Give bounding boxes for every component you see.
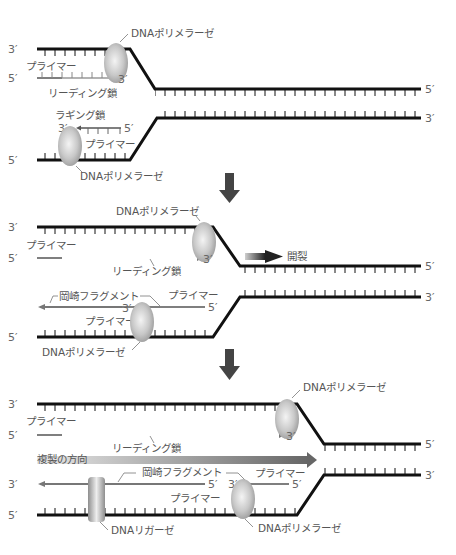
okazaki-fragment-label: 岡崎フラグメント — [59, 290, 139, 302]
upper-template-strand — [37, 227, 421, 273]
unwinding-arrow — [245, 250, 283, 263]
label-5prime: 5′ — [292, 478, 302, 491]
label-5prime: 5′ — [8, 429, 18, 442]
primer-label: プライマー — [255, 467, 305, 479]
okazaki-fragment — [38, 304, 135, 310]
primer-label: プライマー — [26, 239, 76, 251]
lagging-strand-label: ラギング鎖 — [55, 109, 106, 121]
dna-polymerase-label: DNAポリメラーゼ — [131, 27, 215, 39]
primer-label: プライマー — [85, 315, 135, 327]
label-5prime: 5′ — [8, 509, 18, 522]
panel-2: 3′ 5′ 5′ プライマー リーディング鎖 3′ DNAポリメラーゼ 開裂 5… — [8, 205, 435, 358]
label-5prime: 5′ — [208, 301, 218, 314]
label-3prime: 3′ — [286, 430, 296, 443]
dna-polymerase-enzyme — [58, 126, 82, 166]
primer-label: プライマー — [168, 289, 218, 301]
label-3prime: 3′ — [8, 221, 18, 234]
label-5prime: 5′ — [124, 122, 134, 135]
label-5prime: 5′ — [8, 331, 18, 344]
dna-polymerase-label: DNAポリメラーゼ — [42, 346, 126, 358]
okazaki-fragment — [38, 481, 205, 487]
step-arrow-down — [219, 173, 240, 203]
label-3prime: 3′ — [8, 478, 18, 491]
dna-polymerase-label: DNAポリメラーゼ — [116, 205, 200, 217]
label-3prime: 3′ — [425, 112, 435, 125]
replication-direction-label: 複製の方向 — [37, 453, 87, 465]
label-3prime: 3′ — [425, 469, 435, 482]
label-5prime: 5′ — [425, 83, 435, 96]
label-3prime: 3′ — [425, 291, 435, 304]
dna-polymerase-label: DNAポリメラーゼ — [303, 381, 387, 393]
leading-strand-label: リーディング鎖 — [48, 87, 118, 99]
label-3prime: 3′ — [8, 43, 18, 56]
primer-label: プライマー — [26, 415, 76, 427]
label-5prime: 5′ — [8, 252, 18, 265]
primer-label: プライマー — [170, 492, 220, 504]
leading-strand-label: リーディング鎖 — [112, 265, 182, 277]
dna-polymerase-label: DNAポリメラーゼ — [258, 522, 342, 534]
label-5prime: 5′ — [8, 154, 18, 167]
label-3prime: 3′ — [8, 398, 18, 411]
label-5prime: 5′ — [425, 438, 435, 451]
leading-strand — [37, 432, 285, 438]
label-5prime: 5′ — [425, 260, 435, 273]
label-5prime: 5′ — [208, 478, 218, 491]
primer-label: プライマー — [26, 60, 76, 72]
dna-replication-diagram: 3′ 5′ 5′ プライマー リーディング鎖 3′ DNAポリメラーゼ 5′ 3 — [0, 0, 456, 555]
label-3prime: 3′ — [122, 302, 132, 315]
panel-1: 3′ 5′ 5′ プライマー リーディング鎖 3′ DNAポリメラーゼ 5′ 3 — [8, 27, 435, 182]
unwinding-label: 開裂 — [287, 250, 308, 262]
leading-strand-label: リーディング鎖 — [112, 442, 182, 454]
lagging-primer — [76, 126, 121, 135]
upper-template-strand — [37, 404, 421, 451]
dna-ligase-enzyme — [88, 477, 105, 522]
dna-polymerase-enzyme — [231, 479, 255, 519]
okazaki-fragment-label: 岡崎フラグメント — [142, 466, 222, 478]
dna-polymerase-label: DNAポリメラーゼ — [80, 170, 164, 182]
label-5prime: 5′ — [8, 72, 18, 85]
label-3prime: 3′ — [203, 253, 213, 266]
label-3prime: 3′ — [118, 73, 128, 86]
dna-ligase-label: DNAリガーゼ — [111, 524, 175, 536]
step-arrow-down — [219, 349, 240, 380]
dna-polymerase-enzyme — [130, 302, 154, 342]
panel-3: 3′ 5′ 5′ プライマー リーディング鎖 3′ DNAポリメラーゼ 複製の方… — [8, 381, 435, 536]
primer-label: プライマー — [85, 138, 135, 150]
leading-strand — [37, 255, 203, 261]
